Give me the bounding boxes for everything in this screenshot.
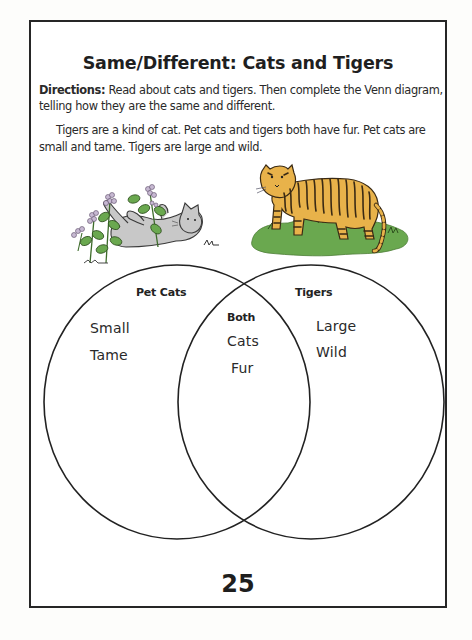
worksheet-title: Same/Different: Cats and Tigers [31, 53, 445, 73]
venn-heading-pet-cats: Pet Cats [136, 286, 186, 299]
venn-heading-both: Both [227, 311, 255, 324]
venn-heading-tigers: Tigers [295, 286, 332, 299]
venn-circle-pet-cats [44, 265, 310, 539]
worksheet-page: Same/Different: Cats and Tigers Directio… [29, 20, 447, 608]
tiger-illustration [248, 159, 413, 259]
directions: Directions: Read about cats and tigers. … [39, 82, 443, 114]
cat-among-flowers-icon [64, 175, 219, 265]
directions-label: Directions: [39, 83, 105, 97]
venn-entry-cats: Cats [227, 333, 259, 349]
venn-entry-wild: Wild [316, 344, 347, 360]
reading-passage: Tigers are a kind of cat. Pet cats and t… [39, 122, 443, 156]
venn-entry-small: Small [90, 320, 130, 336]
venn-entry-fur: Fur [231, 360, 254, 376]
venn-entry-large: Large [316, 318, 356, 334]
page-number: 25 [31, 570, 445, 598]
cat-illustration [64, 175, 219, 265]
venn-circle-tigers [178, 265, 444, 539]
tiger-on-grass-icon [248, 159, 413, 259]
venn-entry-tame: Tame [90, 347, 128, 363]
